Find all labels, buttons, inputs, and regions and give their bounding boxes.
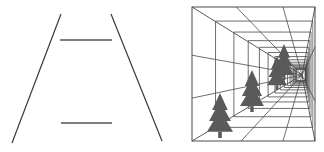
perspective-corridor-panel bbox=[192, 7, 315, 141]
converging-line bbox=[12, 14, 61, 143]
tree-icon bbox=[240, 70, 264, 112]
tree-icon bbox=[207, 93, 233, 138]
illusion-figure bbox=[0, 0, 324, 152]
ponzo-illusion-panel bbox=[12, 14, 162, 143]
converging-line bbox=[111, 14, 162, 141]
